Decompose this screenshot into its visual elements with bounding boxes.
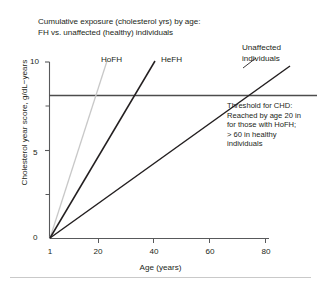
y-tick-label-5: 5: [33, 148, 38, 157]
series-line-unaffected: [50, 66, 290, 238]
x-tick-label-40: 40: [149, 247, 158, 256]
threshold-annotation-line-4: > 60 in healthy: [227, 130, 321, 140]
threshold-annotation: Threshold for CHD: Reached by age 20 in …: [227, 101, 321, 149]
threshold-annotation-line-1: Threshold for CHD:: [227, 101, 321, 111]
threshold-annotation-line-2: Reached by age 20 in: [227, 111, 321, 121]
threshold-annotation-line-3: for those with HoFH;: [227, 120, 321, 130]
chart-figure: Cumulative exposure (cholesterol yrs) by…: [0, 0, 321, 289]
y-tick-label-0: 0: [33, 233, 38, 242]
threshold-annotation-line-5: individuals: [227, 139, 321, 149]
x-tick-label-80: 80: [261, 247, 270, 256]
series-label-hofh: HoFH: [101, 55, 122, 65]
x-tick-label-20: 20: [93, 247, 102, 256]
x-tick-label-1: 1: [48, 247, 53, 256]
series-label-hefh: HeFH: [161, 55, 182, 65]
series-line-hefh: [50, 61, 155, 238]
x-tick-label-60: 60: [205, 247, 214, 256]
footer-divider: [10, 277, 311, 278]
y-axis-title: Cholesterol year score, g/dL−years: [20, 43, 29, 203]
series-label-unaffected: Unaffected individuals: [242, 43, 318, 64]
x-axis-title: Age (years): [0, 263, 321, 272]
y-tick-label-10: 10: [30, 57, 39, 66]
series-line-hofh: [50, 61, 107, 238]
